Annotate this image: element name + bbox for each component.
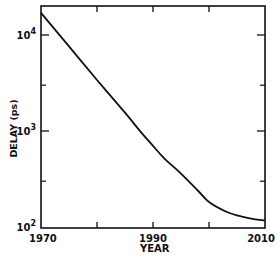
plot-frame (41, 6, 265, 228)
delay-curve (41, 13, 265, 221)
y-tick-label: 102 (17, 219, 37, 233)
x-tick-label: 1970 (29, 233, 57, 244)
x-axis-title: YEAR (140, 243, 170, 254)
axis-ticks (41, 6, 265, 228)
plot-border (41, 6, 265, 228)
chart: 197019902010102103104 (0, 0, 280, 259)
y-axis-title: DELAY (ps) (8, 94, 19, 164)
x-tick-label: 2010 (247, 233, 275, 244)
y-tick-label: 103 (17, 123, 37, 137)
data-series-line (41, 13, 265, 221)
tick-labels: 197019902010102103104 (17, 27, 276, 244)
y-tick-label: 104 (17, 27, 37, 41)
